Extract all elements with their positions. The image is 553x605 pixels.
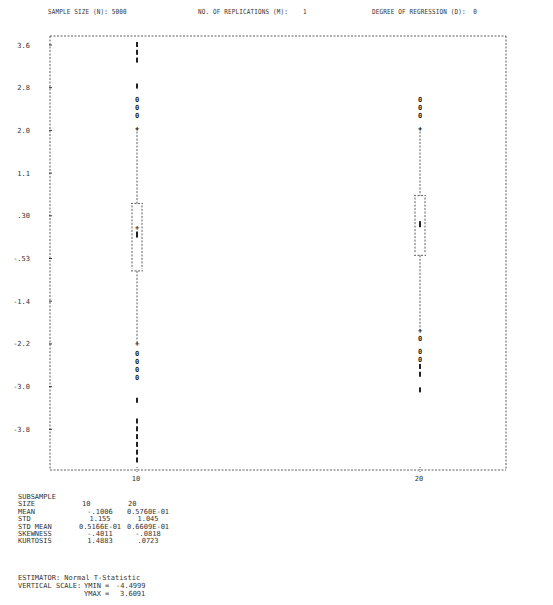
whisker-end-marker: + (418, 125, 422, 133)
ymax-value: 3.6091 (116, 590, 145, 598)
median-marker (136, 232, 138, 238)
outlier-extreme (136, 84, 138, 89)
whisker-end-marker: + (135, 340, 139, 348)
ymax-label: YMAX = (84, 590, 116, 598)
x-tick-label: 20 (415, 475, 423, 483)
outlier-extreme (136, 457, 138, 462)
outlier-extreme (419, 364, 421, 369)
outlier-extreme (136, 434, 138, 439)
y-tick-label: -3.0 (13, 383, 30, 391)
mean-marker: + (135, 224, 139, 232)
outlier-extreme (419, 372, 421, 377)
whisker-end-marker: + (135, 125, 139, 133)
y-tick-label: 2.8 (17, 84, 30, 92)
y-tick-label: -2.2 (13, 340, 30, 348)
y-tick-label: -1.4 (13, 298, 30, 306)
vertical-scale-label: VERTICAL SCALE: (18, 582, 84, 590)
y-tick-label: -3.8 (13, 426, 30, 434)
outlier-extreme (136, 419, 138, 424)
outlier-extreme (136, 426, 138, 431)
ymin-label: YMIN = (84, 582, 116, 590)
y-tick-label: 2.0 (17, 127, 30, 135)
boxplot-chart: 3.62.82.01.1.30-.53-1.4-2.2-3.0-3.81020+… (0, 0, 553, 490)
outlier-extreme (136, 442, 138, 447)
outlier-extreme (136, 42, 138, 47)
outlier-extreme (136, 50, 138, 55)
outlier-extreme (419, 387, 421, 392)
outlier-mild: 0 (418, 335, 422, 343)
outlier-mild: 0 (135, 374, 139, 382)
outlier-mild: 0 (418, 112, 422, 120)
ymin-value: -4.4999 (116, 582, 146, 590)
outlier-extreme (136, 58, 138, 63)
y-tick-label: .30 (17, 212, 30, 220)
summary-statistics-table: SUBSAMPLE SIZE 10 20 MEAN -.1006 0.5760E… (18, 494, 172, 546)
outlier-extreme (136, 398, 138, 403)
estimator-footer: ESTIMATOR: Normal T-Statistic VERTICAL S… (18, 574, 146, 598)
y-tick-label: -.53 (13, 255, 30, 263)
outlier-mild: 0 (418, 356, 422, 364)
y-tick-label: 1.1 (17, 170, 30, 178)
median-marker (419, 221, 421, 227)
estimator-label: ESTIMATOR: Normal T-Statistic (18, 574, 140, 582)
outlier-mild: 0 (418, 348, 422, 356)
outlier-mild: 0 (135, 112, 139, 120)
stats-row-kurtosis: KURTOSIS 1.4883 .0723 (18, 538, 172, 545)
x-tick-label: 10 (132, 475, 140, 483)
y-tick-label: 3.6 (17, 42, 30, 50)
outlier-extreme (136, 450, 138, 455)
